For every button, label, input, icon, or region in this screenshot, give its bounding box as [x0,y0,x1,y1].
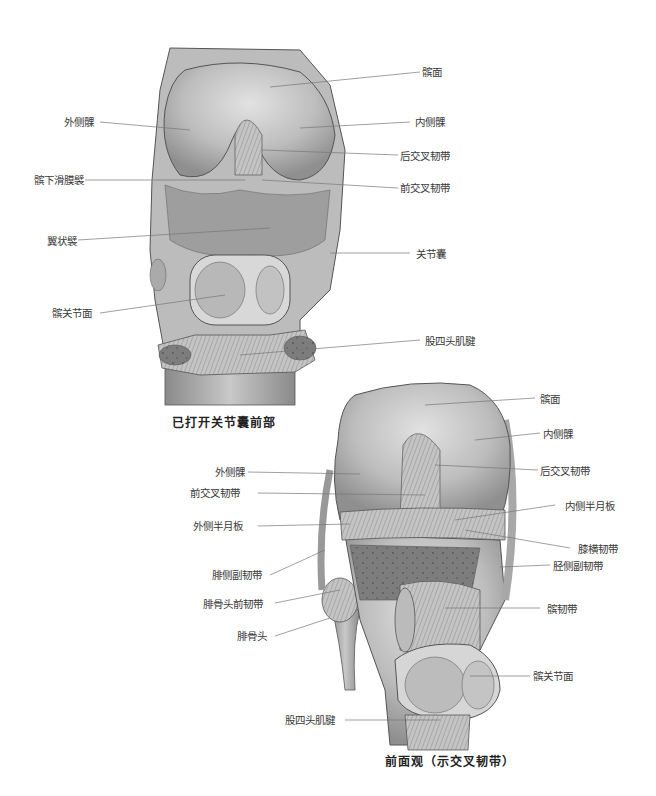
label-patellar-surface-bottom: 髌面 [540,393,560,405]
label-medial-condyle-top: 内侧髁 [415,116,445,128]
label-quadriceps-top: 股四头肌腱 [425,335,475,347]
label-medial-meniscus: 内侧半月板 [565,500,615,512]
label-patellar-ligament: 髌韧带 [547,603,577,615]
top-knee-illustration [150,48,345,405]
label-pcl-bottom: 后交叉韧带 [540,465,590,477]
label-transverse-ligament: 膝横韧带 [578,543,618,555]
label-patellar-surface-top: 髌面 [422,66,442,78]
label-patellar-articular-bottom: 髌关节面 [533,670,573,682]
label-pcl-top: 后交叉韧带 [400,150,450,162]
label-fibular-head: 腓骨头 [237,630,267,642]
label-alar-folds: 翼状襞 [47,235,77,247]
caption-top: 已打开关节囊前部 [172,413,276,430]
label-tibial-collateral: 胫侧副韧带 [553,560,603,572]
label-fibular-collateral: 腓侧副韧带 [212,569,262,581]
label-anterior-fibular-head-ligament: 腓骨头前韧带 [203,598,263,610]
label-medial-condyle-bottom: 内侧髁 [543,428,573,440]
label-joint-capsule: 关节囊 [416,248,446,260]
label-acl-bottom: 前交叉韧带 [190,487,240,499]
label-quadriceps-bottom: 股四头肌腱 [285,714,335,726]
label-patellar-articular-top: 髌关节面 [52,307,92,319]
bottom-knee-illustration [321,383,513,750]
label-lateral-condyle-top: 外侧髁 [64,116,94,128]
label-infrapatellar-fold: 髌下滑膜襞 [34,174,84,186]
label-lateral-meniscus: 外侧半月板 [193,520,243,532]
caption-bottom: 前面观（示交叉韧带） [385,752,515,769]
label-acl-top: 前交叉韧带 [400,182,450,194]
label-lateral-condyle-bottom: 外侧髁 [215,466,245,478]
